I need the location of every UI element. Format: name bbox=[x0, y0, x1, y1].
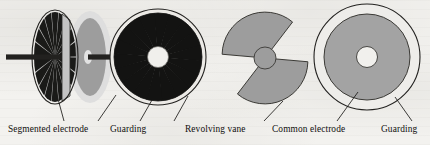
segmented-electrode-hub bbox=[148, 47, 169, 68]
revolving-vane-hub bbox=[254, 47, 276, 69]
leader-guarding-right bbox=[395, 97, 412, 121]
segmented-electrode-tilted-edge bbox=[62, 14, 70, 101]
leader-guarding-left-a bbox=[98, 95, 116, 121]
figure-revolving-vane bbox=[213, 2, 318, 114]
diagram-page: Segmented electrode Guarding Revolving v… bbox=[0, 0, 430, 145]
label-guarding-left: Guarding bbox=[110, 124, 146, 135]
figure-segmented-electrode-face bbox=[110, 9, 206, 105]
common-electrode-centre-hole bbox=[357, 47, 378, 68]
figure-perspective-assembly bbox=[6, 10, 116, 104]
label-revolving-vane: Revolving vane bbox=[185, 124, 246, 135]
label-common-electrode: Common electrode bbox=[272, 124, 345, 135]
shaft-left bbox=[6, 54, 62, 59]
label-segmented-electrode: Segmented electrode bbox=[8, 124, 88, 135]
label-guarding-right: Guarding bbox=[381, 124, 417, 135]
figure-common-electrode-face bbox=[314, 4, 420, 110]
